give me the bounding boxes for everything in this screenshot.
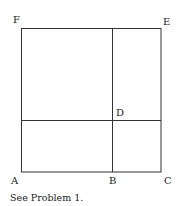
- outer-square: [22, 29, 162, 173]
- label-F: F: [13, 15, 20, 25]
- label-D: D: [116, 108, 124, 118]
- diagram-canvas: [0, 0, 178, 206]
- label-E: E: [163, 17, 170, 27]
- label-B: B: [109, 176, 116, 186]
- label-C: C: [164, 176, 172, 186]
- figure-caption: See Problem 1.: [10, 192, 83, 203]
- label-A: A: [11, 176, 18, 186]
